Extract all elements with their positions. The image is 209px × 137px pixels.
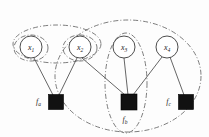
- factor-node-fb[interactable]: fb: [121, 94, 137, 125]
- variable-node-x2[interactable]: x2: [69, 36, 91, 58]
- edge-x4-fc: [170, 57, 184, 95]
- factor-label-fa: fa: [36, 97, 41, 107]
- factor-graph-canvas: x1 x2 x3 x4: [0, 0, 209, 137]
- factor-graph-figure: x1 x2 x3 x4: [0, 0, 209, 137]
- variable-node-x1[interactable]: x1: [20, 36, 42, 58]
- variable-node-x4[interactable]: x4: [156, 36, 178, 58]
- factor-square-fb[interactable]: [121, 94, 137, 110]
- edge-x2-fb: [82, 58, 125, 95]
- edge-x4-fb: [133, 57, 162, 95]
- factor-node-fa[interactable]: fa: [36, 95, 63, 110]
- edge-x1-fa: [34, 58, 53, 95]
- factor-square-fa[interactable]: [49, 95, 64, 110]
- factor-label-fc: fc: [166, 97, 171, 107]
- factor-node-fc[interactable]: fc: [166, 95, 193, 110]
- factor-nodes-layer: fa fb fc: [36, 94, 193, 125]
- edge-x3-fb: [124, 58, 128, 95]
- edge-x2-fa: [59, 58, 77, 95]
- factor-square-fc[interactable]: [179, 95, 194, 110]
- group-ellipses-layer: [13, 20, 201, 133]
- factor-label-fb: fb: [123, 115, 128, 125]
- variable-node-x3[interactable]: x3: [113, 36, 135, 58]
